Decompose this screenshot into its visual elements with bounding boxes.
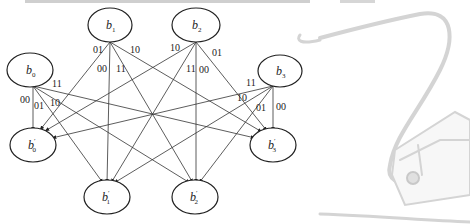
edge-label: 00 [276,101,286,112]
node-b2-prime: b′2 [172,180,218,214]
svg-text:b′0: b′0 [28,137,37,154]
node-b3-prime: b′3 [250,128,296,162]
node-b1-prime: b′1 [84,180,130,214]
state-transition-diagram: b0 b1 b2 b3 b′0 b′1 b′2 b′3 00 01 10 11 … [0,0,470,224]
edge-label: 10 [170,42,180,53]
edge-label: 10 [237,92,247,103]
edge-labels: 00 01 10 11 01 00 11 10 10 11 00 01 11 1… [20,42,286,113]
edge-label: 00 [20,94,30,105]
cropped-top-text [25,0,375,3]
mouse-illustration [299,13,470,222]
edge-label: 01 [256,102,266,113]
svg-text:b′3: b′3 [268,137,277,154]
edges [33,42,273,183]
edge-label: 11 [186,63,196,74]
svg-text:b′1: b′1 [102,189,111,206]
svg-text:b′2: b′2 [190,189,199,206]
edge-label: 11 [116,63,126,74]
node-b0-prime: b′0 [10,128,56,162]
edge-label: 01 [212,47,222,58]
edge-label: 00 [199,64,209,75]
edge-label: 00 [97,63,107,74]
node-b2: b2 [172,8,220,42]
edge-label: 01 [34,100,44,111]
edge-label: 10 [130,44,140,55]
node-b3: b3 [258,55,302,87]
edge-label: 10 [50,97,60,108]
node-b0: b0 [7,53,53,87]
edge-label: 11 [246,77,256,88]
node-b1: b1 [88,8,132,42]
edge-label: 01 [93,44,103,55]
edge-label: 11 [52,78,62,89]
